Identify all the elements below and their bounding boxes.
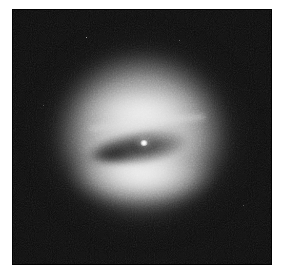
field-star [179,40,180,41]
field-star [243,205,244,206]
galaxy-nucleus-point [141,140,148,146]
field-star [43,105,44,106]
field-star [86,37,87,38]
page-root [0,0,284,277]
astronomical-image-plate [12,9,272,265]
